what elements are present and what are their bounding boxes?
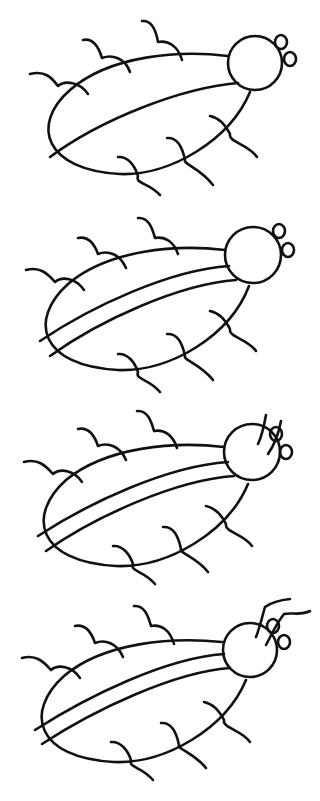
bug-drawing-2 — [0, 198, 320, 398]
bug-head-icon — [225, 227, 281, 283]
bug-drawing-3 — [0, 396, 320, 596]
bug-head-icon — [224, 424, 280, 480]
antenna-icon — [266, 611, 310, 645]
bug-body-icon — [42, 640, 246, 762]
drawing-step-1 — [0, 0, 320, 200]
drawing-step-3 — [0, 396, 320, 596]
drawing-step-2 — [0, 198, 320, 398]
drawing-step-4 — [0, 592, 320, 792]
bug-drawing-4 — [0, 592, 320, 801]
antenna-icon — [258, 415, 266, 444]
bug-drawing-1 — [0, 0, 320, 200]
bug-body-icon — [48, 54, 250, 174]
